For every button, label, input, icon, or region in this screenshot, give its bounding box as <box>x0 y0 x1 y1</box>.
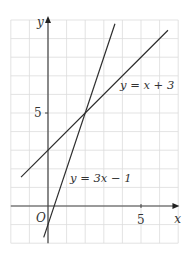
origin-label: O <box>36 211 46 225</box>
axes <box>11 16 180 243</box>
line-x-plus-3-label: y = x + 3 <box>119 78 174 92</box>
y-tick-label: 5 <box>34 106 42 120</box>
y-axis-label: y <box>36 15 44 29</box>
line-3x-minus-1-label: y = 3x − 1 <box>69 171 132 185</box>
y-axis-arrow-icon <box>45 16 51 23</box>
grid <box>11 20 178 243</box>
line-x-plus-3 <box>21 30 168 177</box>
x-tick-label: 5 <box>137 213 145 227</box>
line-3x-minus-1 <box>44 24 115 238</box>
coordinate-graph: x y O 5 5 y = x + 3 y = 3x − 1 <box>0 0 185 256</box>
x-axis-label: x <box>174 212 181 226</box>
plot-lines <box>21 24 168 238</box>
